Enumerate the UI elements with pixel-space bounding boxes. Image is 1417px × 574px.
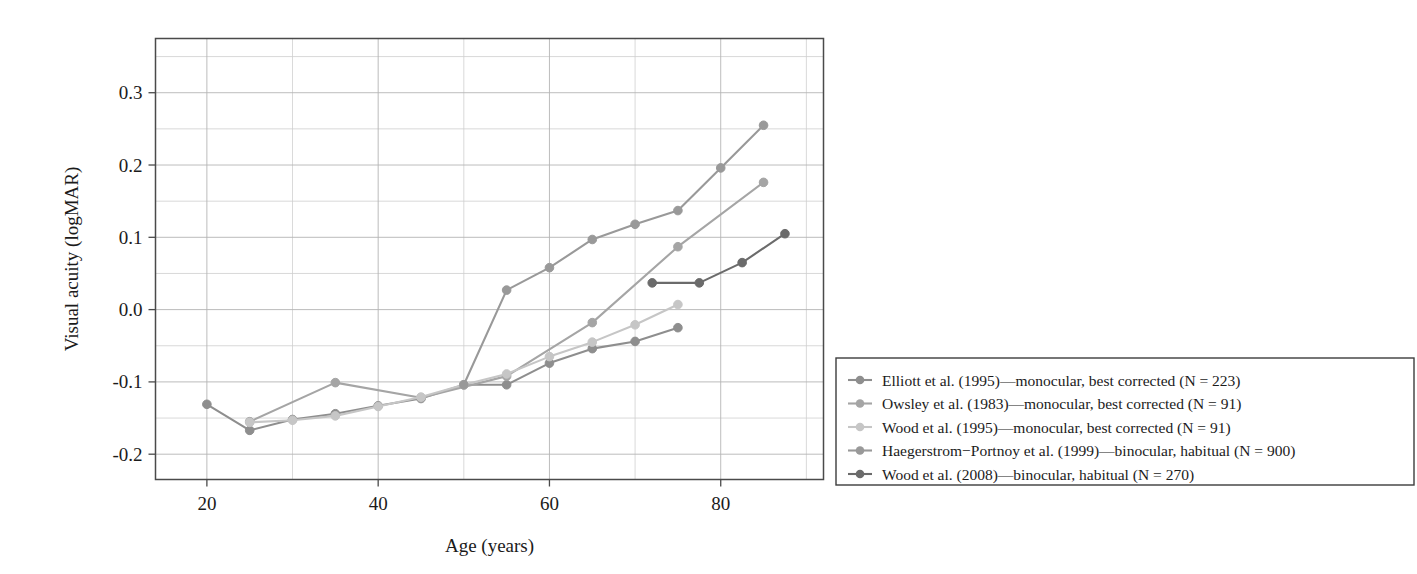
x-tick-label: 20 [197, 493, 216, 514]
y-tick-label: 0.3 [119, 82, 143, 103]
legend-marker-icon [856, 399, 865, 408]
legend-marker-icon [856, 423, 865, 432]
data-point [674, 323, 683, 332]
data-point [631, 320, 640, 329]
series-3 [460, 121, 768, 389]
plot-frame [156, 39, 824, 480]
chart-canvas: 20406080 -0.2-0.10.00.10.20.3 Age (years… [0, 0, 1417, 574]
data-point [245, 426, 254, 435]
data-point [545, 263, 554, 272]
data-point [738, 258, 747, 267]
series-4 [648, 229, 789, 287]
legend-marker-icon [856, 470, 865, 479]
data-point [588, 338, 597, 347]
data-point [674, 206, 683, 215]
y-tick-label: 0.2 [119, 155, 143, 176]
data-point [460, 380, 469, 389]
legend-label: Wood et al. (2008)—binocular, habitual (… [882, 466, 1194, 484]
legend-item-3[interactable]: Haegerstrom−Portnoy et al. (1999)—binocu… [848, 442, 1295, 460]
data-point [588, 235, 597, 244]
data-point [759, 121, 768, 130]
y-axis-label: Visual acuity (logMAR) [61, 167, 83, 352]
y-tick-label: -0.1 [112, 371, 142, 392]
data-point [331, 412, 340, 421]
x-tick-label: 80 [711, 493, 730, 514]
data-point [288, 416, 297, 425]
data-point [759, 178, 768, 187]
y-tick-label: -0.2 [112, 444, 142, 465]
data-point [502, 286, 511, 295]
data-point [502, 380, 511, 389]
data-point [695, 279, 704, 288]
data-point [545, 352, 554, 361]
legend-item-2[interactable]: Wood et al. (1995)—monocular, best corre… [848, 419, 1231, 437]
data-point [674, 300, 683, 309]
legend-item-0[interactable]: Elliott et al. (1995)—monocular, best co… [848, 372, 1240, 390]
legend-label: Owsley et al. (1983)—monocular, best cor… [882, 395, 1241, 413]
legend-marker-icon [856, 446, 865, 455]
data-point [648, 279, 657, 288]
x-axis-label: Age (years) [445, 535, 534, 557]
data-point [502, 370, 511, 379]
data-point [331, 378, 340, 387]
data-point [203, 400, 212, 409]
data-point [674, 242, 683, 251]
y-tick-label: 0.0 [119, 299, 143, 320]
x-tick-label: 40 [369, 493, 388, 514]
minor-gridlines [156, 39, 824, 480]
major-gridlines [156, 39, 824, 480]
data-series-group [203, 121, 790, 435]
y-axis-ticks: -0.2-0.10.00.10.20.3 [112, 82, 155, 464]
x-axis-ticks: 20406080 [197, 480, 730, 514]
data-point [374, 402, 383, 411]
legend-label: Wood et al. (1995)—monocular, best corre… [882, 419, 1231, 437]
legend-label: Elliott et al. (1995)—monocular, best co… [882, 372, 1240, 390]
legend-item-1[interactable]: Owsley et al. (1983)—monocular, best cor… [848, 395, 1241, 413]
data-point [631, 220, 640, 229]
data-point [631, 337, 640, 346]
data-point [716, 164, 725, 173]
data-point [781, 229, 790, 238]
data-point [588, 318, 597, 327]
data-point [417, 393, 426, 402]
legend-marker-icon [856, 376, 865, 385]
y-tick-label: 0.1 [119, 227, 143, 248]
x-tick-label: 60 [540, 493, 559, 514]
legend-label: Haegerstrom−Portnoy et al. (1999)—binocu… [882, 442, 1295, 460]
legend-item-4[interactable]: Wood et al. (2008)—binocular, habitual (… [848, 466, 1194, 484]
data-point [245, 418, 254, 427]
chart-legend: Elliott et al. (1995)—monocular, best co… [836, 358, 1414, 485]
visual-acuity-vs-age-figure: 20406080 -0.2-0.10.00.10.20.3 Age (years… [0, 0, 1417, 574]
